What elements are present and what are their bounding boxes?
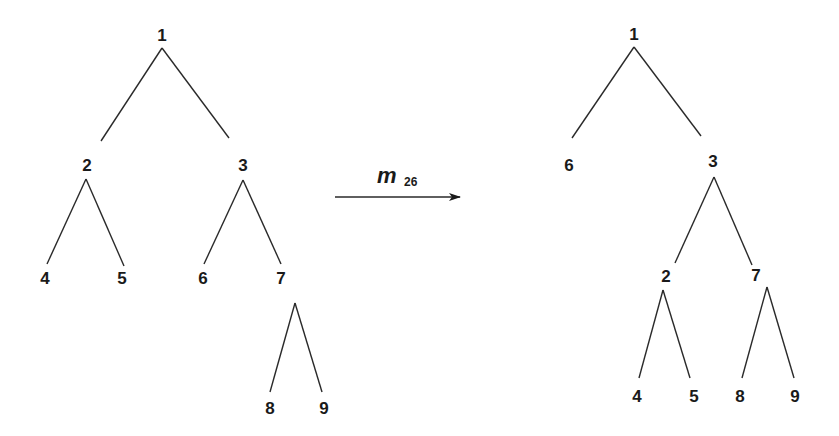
transformation-arrow: m 26 — [335, 163, 460, 197]
after-edge-1-6 — [572, 47, 634, 138]
before-node-9: 9 — [319, 399, 328, 418]
after-node-1: 1 — [629, 25, 638, 44]
before-tree-edges — [47, 48, 322, 392]
before-node-8: 8 — [265, 399, 274, 418]
before-node-1: 1 — [157, 26, 166, 45]
after-edge-2-5 — [663, 290, 690, 378]
after-edge-7-9 — [767, 287, 794, 378]
before-edge-2-4 — [47, 179, 86, 264]
after-edge-3-7 — [714, 177, 752, 265]
before-tree-nodes: 123456789 — [40, 26, 328, 418]
before-edge-7-9 — [295, 303, 322, 392]
after-node-7: 7 — [751, 266, 760, 285]
operation-subscript: 26 — [404, 175, 418, 189]
after-node-8: 8 — [735, 387, 744, 406]
after-edge-7-8 — [742, 287, 767, 378]
after-node-3: 3 — [708, 152, 717, 171]
tree-transformation-diagram: 123456789 m 26 163274589 — [0, 0, 839, 436]
after-tree-nodes: 163274589 — [564, 25, 799, 406]
after-node-4: 4 — [632, 387, 642, 406]
before-edge-1-3 — [162, 48, 229, 138]
before-edge-7-8 — [270, 303, 295, 392]
after-edge-2-4 — [639, 290, 663, 378]
after-node-6: 6 — [564, 156, 573, 175]
after-edge-3-2 — [675, 177, 714, 263]
after-tree-edges — [572, 47, 794, 378]
after-node-9: 9 — [790, 387, 799, 406]
before-edge-3-6 — [204, 180, 243, 264]
operation-symbol: m — [377, 163, 397, 188]
before-node-6: 6 — [198, 269, 207, 288]
before-node-4: 4 — [40, 269, 50, 288]
after-node-2: 2 — [661, 267, 670, 286]
after-node-5: 5 — [689, 387, 698, 406]
before-node-3: 3 — [238, 156, 247, 175]
operation-label: m — [377, 163, 397, 188]
before-edge-1-2 — [101, 48, 162, 141]
before-node-7: 7 — [276, 269, 285, 288]
before-node-2: 2 — [82, 156, 91, 175]
before-edge-3-7 — [243, 180, 281, 264]
before-node-5: 5 — [117, 269, 126, 288]
before-edge-2-5 — [86, 179, 124, 266]
after-edge-1-3 — [634, 47, 701, 136]
